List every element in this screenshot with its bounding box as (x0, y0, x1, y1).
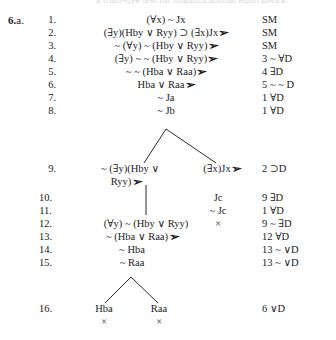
problem-part-value: a. (16, 14, 24, 26)
justification-line-7: 1 ∀D (262, 92, 284, 103)
justification-line-6: 5 ~ ~ D (262, 79, 294, 90)
check-mark-icon-line-9-left: ➢ (131, 176, 143, 188)
problem-number-value: 6. (8, 14, 16, 26)
justification-line-16: 6 ∨D (262, 303, 285, 314)
formula-line-10-right: Jc (214, 192, 223, 203)
formula-line-5: ~ ~ (Hba ∨ Raa)➢ (126, 66, 206, 77)
closed-branch-marker-16-right: × (156, 317, 162, 327)
formula-line-6: Hba ∨ Raa➢ (138, 79, 195, 90)
line-number-2: 2. (30, 27, 56, 38)
formula-line-6-text: Hba ∨ Raa (138, 79, 185, 90)
formula-line-16-branch-right: Raa (151, 303, 167, 314)
formula-line-2: (∃y)(Hby ∨ Ryy) ⊃ (∃x)Jx➢ (104, 27, 228, 38)
check-mark-icon-line-5: ➢ (196, 66, 208, 78)
justification-line-9: 2 ⊃D (262, 163, 286, 174)
formula-line-11-right: ~ Jc (209, 205, 226, 216)
formula-line-15-left: ~ Raa (120, 257, 145, 268)
justification-line-15: 13 ~ ∨D (262, 257, 299, 268)
justification-line-11: 1 ∀D (262, 205, 284, 216)
formula-line-4: (∃y) ~ ~ (Hby ∨ Ryy)➢ (115, 53, 217, 64)
formula-line-2-text: (∃y)(Hby ∨ Ryy) ⊃ (∃x)Jx (104, 27, 218, 38)
formula-line-16-branch-left-text: Hba (95, 303, 113, 314)
formula-line-3-text: ~ (∀y) ~ (Hby ∨ Ryy) (115, 40, 208, 51)
formula-line-11-right-text: ~ Jc (209, 205, 226, 216)
check-mark-icon-line-2: ➢ (218, 27, 230, 39)
line-number-7: 7. (30, 92, 56, 103)
branch-15-to-16-right (131, 277, 158, 303)
formula-line-9-right: (∃x)Jx➢ (203, 163, 240, 174)
justification-line-5: 4 ∃D (262, 66, 283, 77)
formula-line-8: ~ Jb (157, 105, 175, 116)
formula-line-13-left: ~ (Hba ∨ Raa)➢ (106, 231, 178, 242)
formula-line-14-left-text: ~ Hba (119, 244, 145, 255)
branch-8-to-9-right (166, 129, 216, 163)
line-number-14: 14. (26, 244, 52, 255)
justification-line-3: SM (262, 40, 277, 51)
formula-line-12-left: (∀y) ~ (Hby ∨ Ryy) (104, 218, 189, 229)
closed-branch-marker-16-left: × (101, 317, 107, 327)
justification-line-4: 3 ~ ∀D (262, 53, 292, 64)
formula-line-9-left-row1: ~ (∃y)(Hby ∨ (101, 163, 159, 174)
line-number-12: 12. (26, 218, 52, 229)
line-number-11: 11. (26, 205, 52, 216)
check-mark-icon-line-3: ➢ (208, 40, 220, 52)
line-number-15: 15. (26, 257, 52, 268)
formula-line-9-left-row1-text: ~ (∃y)(Hby ∨ (101, 163, 159, 174)
line-number-1: 1. (30, 14, 56, 25)
formula-line-5-text: ~ ~ (Hba ∨ Raa) (126, 66, 196, 77)
formula-line-9-left-row2: Ryy)➢ (111, 176, 142, 187)
formula-line-4-text: (∃y) ~ ~ (Hby ∨ Ryy) (115, 53, 207, 64)
line-number-10: 10. (26, 192, 52, 203)
formula-line-7-text: ~ Ja (157, 92, 174, 103)
formula-line-16-branch-right-text: Raa (151, 303, 167, 314)
check-mark-icon-line-4: ➢ (207, 53, 219, 65)
justification-line-10: 9 ∃D (262, 192, 283, 203)
cropped-text-sliver: a truth-tree test for quantificational e… (96, 0, 326, 3)
check-mark-icon-line-13: ➢ (168, 231, 180, 243)
check-mark-icon-line-9-right: ➢ (231, 163, 243, 175)
justification-line-1: SM (262, 14, 277, 25)
line-number-8: 8. (30, 105, 56, 116)
formula-line-9-left-row2-text: Ryy) (111, 176, 132, 187)
line-number-16: 16. (26, 303, 52, 314)
formula-line-16-branch-left: Hba (95, 303, 113, 314)
formula-line-15-left-text: ~ Raa (120, 257, 145, 268)
formula-line-12-left-text: (∀y) ~ (Hby ∨ Ryy) (104, 218, 189, 229)
branch-15-to-16-left (105, 277, 131, 303)
formula-line-14-left: ~ Hba (119, 244, 145, 255)
line-number-6: 6. (30, 79, 56, 90)
justification-line-13: 12 ∀D (262, 231, 289, 242)
line-number-9: 9. (30, 163, 56, 174)
line-number-5: 5. (30, 66, 56, 77)
justification-line-14: 13 ~ ∨D (262, 244, 299, 255)
formula-line-10-right-text: Jc (214, 192, 223, 203)
formula-line-7: ~ Ja (157, 92, 174, 103)
branch-8-to-9-left (144, 129, 166, 163)
formula-line-1: (∀x) ~ Jx (147, 14, 186, 25)
formula-line-8-text: ~ Jb (157, 105, 175, 116)
justification-line-8: 1 ∀D (262, 105, 284, 116)
justification-line-2: SM (262, 27, 277, 38)
formula-line-9-right-text: (∃x)Jx (203, 163, 230, 174)
check-mark-icon-line-6: ➢ (185, 79, 197, 91)
problem-number: 6.a. (8, 14, 24, 26)
closed-branch-marker-right: × (215, 219, 221, 229)
line-number-13: 13. (26, 231, 52, 242)
line-number-3: 3. (30, 40, 56, 51)
justification-line-12: 9 ~ ∃D (262, 218, 291, 229)
formula-line-3: ~ (∀y) ~ (Hby ∨ Ryy)➢ (115, 40, 218, 51)
truth-tree-proof-sheet: a truth-tree test for quantificational e… (0, 0, 336, 340)
formula-line-13-left-text: ~ (Hba ∨ Raa) (106, 231, 168, 242)
line-number-4: 4. (30, 53, 56, 64)
formula-line-1-text: (∀x) ~ Jx (147, 14, 186, 25)
